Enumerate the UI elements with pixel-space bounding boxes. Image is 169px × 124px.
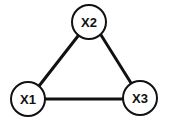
node-x3: X3 xyxy=(123,81,157,115)
edges xyxy=(39,35,131,99)
node-x3-label: X3 xyxy=(132,91,148,106)
node-x1-label: X1 xyxy=(20,92,36,107)
edge-x1-x2 xyxy=(39,36,78,86)
edge-x2-x3 xyxy=(101,35,131,83)
graph-diagram: X2 X1 X3 xyxy=(0,0,169,124)
node-x2: X2 xyxy=(72,5,106,39)
node-x2-label: X2 xyxy=(81,15,97,30)
node-x1: X1 xyxy=(11,82,45,116)
